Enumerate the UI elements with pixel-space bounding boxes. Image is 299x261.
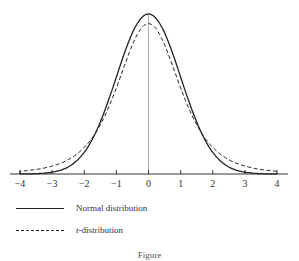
legend-normal-label: Normal distribution [76, 203, 147, 213]
solid-line-swatch [16, 208, 64, 209]
svg-text:0: 0 [146, 178, 151, 189]
legend-t: t-distribution [16, 225, 123, 235]
dashed-line-swatch [16, 230, 64, 231]
svg-text:−4: −4 [15, 178, 26, 189]
svg-text:1: 1 [178, 178, 183, 189]
legend-t-label: t-distribution [76, 225, 123, 235]
legend-normal: Normal distribution [16, 203, 147, 213]
x-axis: −4−3−2−101234 [10, 14, 288, 189]
svg-text:2: 2 [210, 178, 215, 189]
svg-text:3: 3 [242, 178, 247, 189]
svg-text:−2: −2 [79, 178, 90, 189]
figure-caption: Figure [0, 250, 299, 260]
svg-text:−1: −1 [111, 178, 122, 189]
svg-text:−3: −3 [47, 178, 58, 189]
distribution-chart: −4−3−2−101234 [0, 0, 299, 200]
svg-text:4: 4 [275, 178, 280, 189]
